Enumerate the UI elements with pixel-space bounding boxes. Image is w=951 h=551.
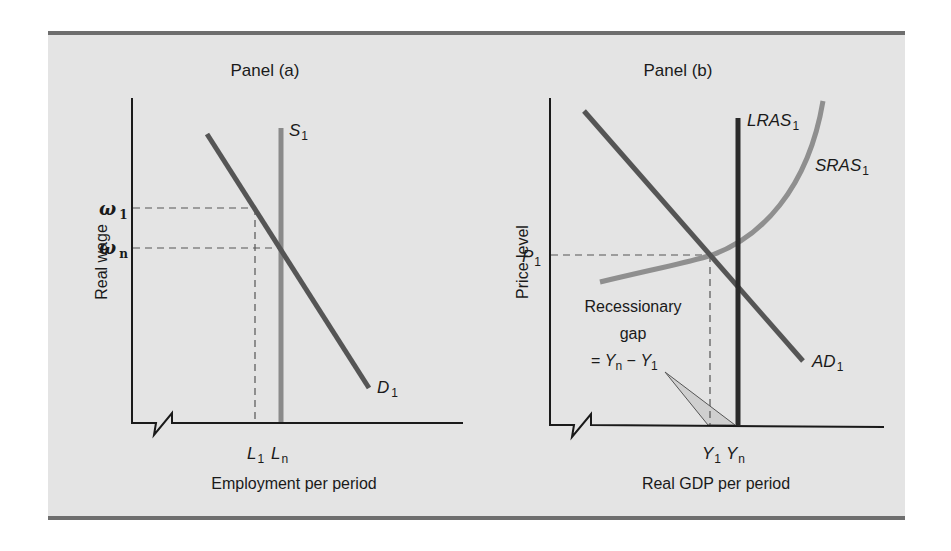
label-d1: D1 [377, 378, 398, 400]
panel-b: Panel (b) Price level P1 LRAS1 SRAS1 AD1… [514, 61, 884, 492]
tick-p1: P1 [522, 247, 541, 269]
tick-omega1: ω1 [99, 198, 128, 222]
recessionary-gap-pointer [665, 372, 735, 425]
panel-b-x-axis-label: Real GDP per period [642, 475, 790, 492]
gap-label-equation: = Yn − Y1 [591, 352, 658, 373]
gap-label-line2: gap [620, 325, 647, 342]
tick-y1: Y1 [702, 444, 721, 466]
tick-omegan: ωn [99, 237, 128, 261]
label-s1: S1 [289, 121, 308, 143]
tick-L1: L1 [247, 444, 264, 466]
panel-a: Panel (a) Real wage ω1 ωn S1 D1 L1 Ln Em… [93, 61, 463, 492]
label-sras1: SRAS1 [815, 156, 869, 178]
ad-curve [584, 111, 803, 361]
panel-a-y-axis-label: Real wage [93, 224, 110, 300]
panel-b-title: Panel (b) [644, 61, 713, 80]
label-ad1: AD1 [811, 352, 844, 374]
panel-a-x-axis-label: Employment per period [211, 475, 376, 492]
panel-a-title: Panel (a) [231, 61, 300, 80]
label-lras1: LRAS1 [747, 111, 799, 133]
gap-label-line1: Recessionary [585, 298, 682, 315]
panel-a-x-axis [131, 413, 463, 435]
figure-frame: Panel (a) Real wage ω1 ωn S1 D1 L1 Ln Em… [48, 31, 905, 520]
diagram-svg: Panel (a) Real wage ω1 ωn S1 D1 L1 Ln Em… [48, 31, 905, 520]
tick-yn: Yn [726, 444, 745, 466]
tick-Ln: Ln [271, 444, 288, 466]
demand-curve-d1 [207, 134, 369, 388]
